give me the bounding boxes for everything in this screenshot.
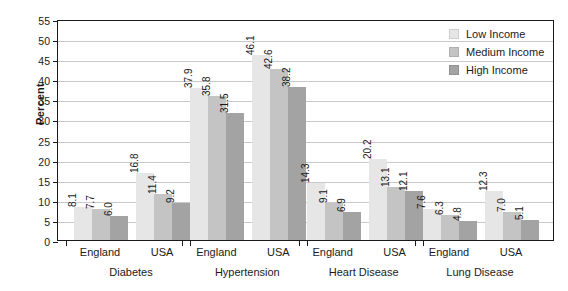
bar-chart: Percent 0510152025303540455055 8.17.76.0… bbox=[0, 0, 568, 291]
x-country-label: England bbox=[312, 246, 352, 258]
y-tick-mark bbox=[53, 182, 58, 183]
bar-value-label: 4.8 bbox=[453, 207, 463, 221]
x-country-label: USA bbox=[383, 246, 406, 258]
y-tick-mark bbox=[53, 162, 58, 163]
y-tick-label: 55 bbox=[38, 15, 50, 27]
y-tick-mark bbox=[53, 121, 58, 122]
bar: 46.1 bbox=[252, 55, 270, 240]
y-tick-label: 30 bbox=[38, 115, 50, 127]
bar: 6.0 bbox=[110, 216, 128, 240]
x-country-label: USA bbox=[151, 246, 174, 258]
bar-value-label: 5.1 bbox=[515, 206, 525, 220]
y-tick-mark bbox=[53, 242, 58, 243]
bar-value-label: 11.4 bbox=[148, 175, 158, 194]
bar: 37.9 bbox=[190, 88, 208, 240]
x-disease-label: Diabetes bbox=[109, 266, 152, 278]
legend-swatch bbox=[449, 29, 459, 39]
bar-value-label: 12.1 bbox=[399, 172, 409, 191]
bar: 31.5 bbox=[226, 113, 244, 240]
bar-value-label: 6.0 bbox=[104, 202, 114, 216]
legend-item: Low Income bbox=[449, 25, 559, 43]
bar-value-label: 8.1 bbox=[68, 194, 78, 208]
legend-label: Low Income bbox=[466, 28, 525, 40]
y-tick-label: 25 bbox=[38, 136, 50, 148]
y-tick-mark bbox=[53, 61, 58, 62]
legend-label: High Income bbox=[466, 64, 528, 76]
bar-value-label: 9.1 bbox=[319, 190, 329, 204]
bar-value-label: 13.1 bbox=[381, 168, 391, 187]
bar-value-label: 35.8 bbox=[202, 77, 212, 96]
y-tick-mark bbox=[53, 202, 58, 203]
bar: 13.1 bbox=[387, 187, 405, 240]
bar: 8.1 bbox=[74, 207, 92, 240]
x-country-label: USA bbox=[267, 246, 290, 258]
y-tick-mark bbox=[53, 101, 58, 102]
y-tick-label: 35 bbox=[38, 95, 50, 107]
bar-value-label: 6.9 bbox=[337, 198, 347, 212]
y-tick-label: 50 bbox=[38, 35, 50, 47]
legend-swatch bbox=[449, 47, 459, 57]
bar-value-label: 12.3 bbox=[479, 171, 489, 190]
bar-value-label: 38.2 bbox=[282, 67, 292, 86]
x-axis-disease-labels: DiabetesHypertensionHeart DiseaseLung Di… bbox=[57, 266, 554, 282]
x-country-label: England bbox=[196, 246, 236, 258]
bar-value-label: 46.1 bbox=[246, 35, 256, 54]
y-tick-mark bbox=[53, 142, 58, 143]
y-tick-label: 45 bbox=[38, 55, 50, 67]
y-tick-mark bbox=[53, 21, 58, 22]
x-disease-label: Heart Disease bbox=[329, 266, 399, 278]
y-tick-label: 0 bbox=[44, 236, 50, 248]
y-tick-mark bbox=[53, 41, 58, 42]
bar: 9.2 bbox=[172, 203, 190, 240]
bar: 5.1 bbox=[521, 220, 539, 240]
gridline bbox=[58, 81, 553, 82]
bar-value-label: 31.5 bbox=[220, 94, 230, 113]
x-disease-label: Hypertension bbox=[215, 266, 280, 278]
y-tick-mark bbox=[53, 81, 58, 82]
legend: Low IncomeMedium IncomeHigh Income bbox=[449, 25, 559, 79]
bar-value-label: 7.0 bbox=[497, 198, 507, 212]
bar-value-label: 20.2 bbox=[363, 139, 373, 158]
bar-value-label: 42.6 bbox=[264, 49, 274, 68]
bar-value-label: 7.6 bbox=[417, 196, 427, 210]
legend-label: Medium Income bbox=[466, 46, 544, 58]
bar: 6.9 bbox=[343, 212, 361, 240]
y-tick-label: 15 bbox=[38, 176, 50, 188]
bar-value-label: 7.7 bbox=[86, 195, 96, 209]
bar-value-label: 16.8 bbox=[130, 153, 140, 172]
x-country-label: England bbox=[80, 246, 120, 258]
legend-item: High Income bbox=[449, 61, 559, 79]
bar-value-label: 9.2 bbox=[166, 189, 176, 203]
y-tick-label: 5 bbox=[44, 216, 50, 228]
legend-swatch bbox=[449, 65, 459, 75]
legend-item: Medium Income bbox=[449, 43, 559, 61]
x-country-label: England bbox=[429, 246, 469, 258]
bar-value-label: 6.3 bbox=[435, 201, 445, 215]
y-tick-mark bbox=[53, 222, 58, 223]
bar-value-label: 37.9 bbox=[184, 68, 194, 87]
x-disease-label: Lung Disease bbox=[446, 266, 513, 278]
bar: 4.8 bbox=[459, 221, 477, 240]
y-tick-label: 40 bbox=[38, 75, 50, 87]
y-tick-label: 20 bbox=[38, 156, 50, 168]
x-axis-country-labels: EnglandUSAEnglandUSAEnglandUSAEnglandUSA bbox=[57, 246, 554, 262]
y-tick-label: 10 bbox=[38, 196, 50, 208]
bar: 42.6 bbox=[270, 69, 288, 240]
bar: 35.8 bbox=[208, 96, 226, 240]
bar-value-label: 14.3 bbox=[301, 163, 311, 182]
x-country-label: USA bbox=[500, 246, 523, 258]
